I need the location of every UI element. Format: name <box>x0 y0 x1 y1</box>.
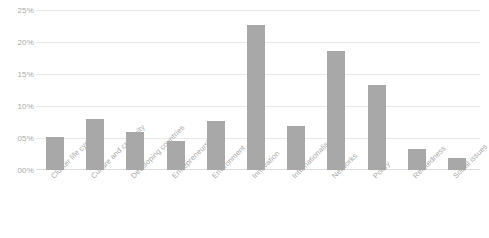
y-tick-label-10: 10% <box>17 102 34 111</box>
y-tick-label-00: 00% <box>17 166 34 175</box>
bar <box>247 25 265 170</box>
y-tick-label-05: 05% <box>17 134 34 143</box>
bar <box>327 51 345 170</box>
y-tick-label-15: 15% <box>17 70 34 79</box>
y-tick-label-25: 25% <box>17 6 34 15</box>
y-tick-label-20: 20% <box>17 38 34 47</box>
x-axis: Cluster life cycleCulture and creativity… <box>36 172 480 238</box>
bar <box>368 85 386 170</box>
plot-area <box>36 10 480 170</box>
y-axis: 25% 20% 15% 10% 05% 00% <box>0 0 40 238</box>
bars-layer <box>36 10 480 170</box>
